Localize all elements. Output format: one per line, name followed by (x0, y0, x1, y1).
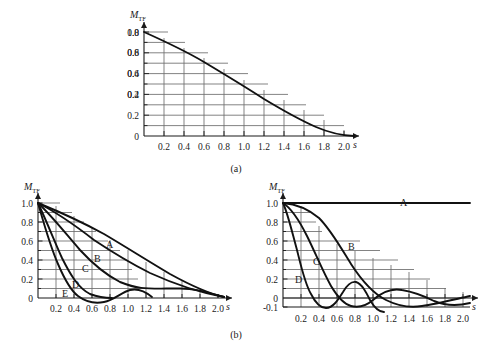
panel-b-right-horizontal-gridlines (283, 203, 470, 298)
panel-b-right-xlabel: s (472, 301, 476, 312)
panel-b-left-xtick-7: 1.4 (158, 304, 170, 314)
panel-b-right-xtick-1: 0.2 (295, 314, 307, 324)
panel-b-left-ylabel: MTF (23, 181, 40, 194)
panel-b-left-label-d: D (72, 279, 79, 290)
panel-b-right-curve-b (283, 203, 470, 307)
panel-b-right-curve-c (283, 203, 470, 307)
panel-a-ylabel: MTF (129, 9, 146, 22)
panel-a-ytick-04b: 0.4 (127, 90, 139, 100)
panel-b-right: A B C D -0.1 0 0.2 0.4 0.6 0.8 1.0 0.2 0… (263, 181, 478, 324)
panel-b-left-ytick-0: 0 (28, 294, 33, 304)
panel-b-left-xtick-4: 0.8 (104, 304, 116, 314)
panel-b-right-y-ticks (283, 203, 288, 307)
panel-a-ytick-02b: 0.2 (127, 111, 139, 121)
panel-a-xtick-8: 1.6 (298, 142, 310, 152)
panel-b-left-xtick-8: 1.6 (176, 304, 188, 314)
panel-a-xtick-5: 1.0 (238, 142, 250, 152)
panel-b-right-label-d: D (295, 274, 302, 285)
panel-b-right-xtick-3: 0.6 (331, 314, 343, 324)
panel-b-left-xtick-10: 2.0 (212, 304, 224, 314)
panel-b-left-label-a: A (106, 239, 114, 250)
panel-b-right-ytick-0: 0 (273, 294, 278, 304)
panel-a-ytick-top: 1.0 (127, 28, 139, 38)
panel-b-right-vertical-gridlines (301, 206, 463, 307)
panel-b-left-xtick-3: 0.6 (86, 304, 98, 314)
panel-a-xtick-3: 0.6 (198, 142, 210, 152)
panel-b-right-ytick-02: 0.2 (266, 275, 278, 285)
panel-a-xtick-2: 0.4 (178, 142, 190, 152)
panel-b-left-axes (35, 193, 232, 301)
panel-a-xtick-4: 0.8 (218, 142, 230, 152)
panel-a-ytick-0: 0 (134, 132, 139, 142)
panel-b-left-label-b: B (94, 253, 101, 264)
panel-b-right-label-b: B (348, 241, 355, 252)
panel-a-xtick-7: 1.4 (278, 142, 290, 152)
panel-b-left-ytick-08: 0.8 (21, 218, 33, 228)
panel-b-right-xtick-8: 1.6 (421, 314, 433, 324)
panel-b-right-ytick-04: 0.4 (266, 256, 278, 266)
panel-b-right-xtick-9: 1.8 (439, 314, 451, 324)
panel-b-right-ytick-10: 1.0 (266, 199, 278, 209)
panel-a-x-ticks (164, 131, 344, 136)
panel-b-caption: (b) (230, 329, 242, 341)
panel-b-right-ytick-08: 0.8 (266, 218, 278, 228)
panel-b-right-xtick-6: 1.2 (385, 314, 397, 324)
panel-b-left: A B C D E 0 0.2 0.4 0.6 0.8 1.0 0.2 0.4 … (21, 181, 232, 314)
panel-b-left-ytick-04: 0.4 (21, 256, 33, 266)
panel-b-right-ylabel: MTF (268, 181, 285, 194)
panel-a-xtick-1: 0.2 (158, 142, 170, 152)
panel-b-left-xlabel: s (226, 301, 230, 312)
panel-b-right-ytick-06: 0.6 (266, 237, 278, 247)
panel-a-ytick-08b: 0.8 (127, 48, 139, 58)
panel-b-left-ytick-06: 0.6 (21, 237, 33, 247)
panel-b-left-ytick-02: 0.2 (21, 275, 33, 285)
panel-a-xlabel: s (353, 139, 357, 150)
panel-a-axes (141, 22, 359, 139)
panel-b-right-xtick-7: 1.4 (403, 314, 415, 324)
panel-b-left-label-e: E (62, 288, 68, 299)
panel-b-left-xtick-1: 0.2 (50, 304, 62, 314)
mtf-figure: 0 0.2 0.4 0.6 0.8 1.0 0.8 0.6 0.4 0.2 0.… (0, 0, 504, 348)
panel-b-right-xtick-2: 0.4 (313, 314, 325, 324)
panel-a-ytick-06b: 0.6 (127, 69, 139, 79)
panel-b-left-xtick-2: 0.4 (68, 304, 80, 314)
panel-a-xtick-6: 1.2 (258, 142, 270, 152)
panel-b-right-ytick-neg: -0.1 (263, 303, 278, 313)
panel-b-right-xtick-5: 1.0 (367, 314, 379, 324)
panel-b-left-curve-a (38, 203, 224, 297)
panel-b-right-xtick-10: 2.0 (457, 314, 469, 324)
panel-a: 0 0.2 0.4 0.6 0.8 1.0 0.8 0.6 0.4 0.2 0.… (127, 9, 359, 175)
panel-a-xtick-10: 2.0 (338, 142, 350, 152)
panel-b-right-label-c: C (313, 256, 320, 267)
panel-a-xtick-9: 1.8 (318, 142, 330, 152)
panel-b-left-xtick-6: 1.2 (140, 304, 152, 314)
panel-b-left-xtick-5: 1.0 (122, 304, 134, 314)
panel-a-caption: (a) (230, 163, 241, 175)
panel-b-left-ytick-10: 1.0 (21, 199, 33, 209)
panel-b-left-vertical-gridlines (56, 206, 218, 298)
panel-a-y-ticks (144, 32, 149, 126)
figure-container: 0 0.2 0.4 0.6 0.8 1.0 0.8 0.6 0.4 0.2 0.… (0, 0, 504, 348)
panel-b-left-xtick-9: 1.8 (194, 304, 206, 314)
panel-b-left-label-c: C (82, 263, 89, 274)
panel-b-right-label-a: A (400, 197, 408, 208)
panel-b-right-xtick-4: 0.8 (349, 314, 361, 324)
